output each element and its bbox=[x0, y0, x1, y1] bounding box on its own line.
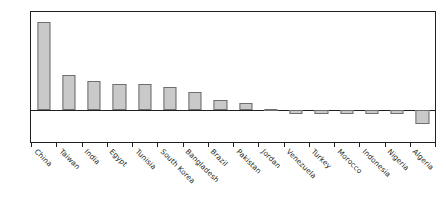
x-axis-label-brazil: Brazil bbox=[209, 147, 230, 168]
y-axis: 6.05.04.03.02.01.00.0-1.0-2.0 bbox=[0, 0, 30, 143]
bar-slot bbox=[359, 12, 384, 142]
bar-bangladesh bbox=[189, 92, 202, 109]
bar-brazil bbox=[214, 100, 227, 110]
x-axis-label-egypt: Egypt bbox=[108, 147, 130, 169]
x-axis-label-tunisia: Tunisia bbox=[133, 147, 157, 171]
bar-series bbox=[31, 12, 435, 142]
bar-pakistan bbox=[239, 103, 252, 110]
bar-slot bbox=[183, 12, 208, 142]
x-axis-label-jordan: Jordan bbox=[259, 147, 282, 170]
bar-slot bbox=[107, 12, 132, 142]
bar-slot bbox=[208, 12, 233, 142]
bar-slot bbox=[258, 12, 283, 142]
x-axis-label-pakistan: Pakistan bbox=[234, 147, 263, 176]
x-axis-label-turkey: Turkey bbox=[310, 147, 334, 171]
bar-slot bbox=[233, 12, 258, 142]
bar-nigeria bbox=[391, 110, 404, 115]
bar-slot bbox=[132, 12, 157, 142]
bar-south-korea bbox=[163, 87, 176, 110]
x-axis-tick-mark bbox=[435, 143, 436, 147]
bar-taiwan bbox=[62, 75, 75, 109]
bar-india bbox=[88, 81, 101, 109]
bar-tunisia bbox=[138, 84, 151, 110]
bar-slot bbox=[82, 12, 107, 142]
bar-chart: 6.05.04.03.02.01.00.0-1.0-2.0 ChinaTaiwa… bbox=[0, 0, 446, 200]
bar-slot bbox=[410, 12, 435, 142]
bar-slot bbox=[309, 12, 334, 142]
bar-indonesia bbox=[365, 110, 378, 115]
x-axis-label-algeria: Algeria bbox=[411, 147, 436, 172]
bar-slot bbox=[157, 12, 182, 142]
bar-slot bbox=[284, 12, 309, 142]
bar-slot bbox=[31, 12, 56, 142]
x-axis-labels: ChinaTaiwanIndiaEgyptTunisiaSouth KoreaB… bbox=[31, 147, 435, 200]
bar-slot bbox=[385, 12, 410, 142]
bar-jordan bbox=[264, 109, 277, 111]
bar-venezuela bbox=[290, 110, 303, 115]
bar-china bbox=[37, 22, 50, 110]
x-axis-label-china: China bbox=[32, 147, 53, 168]
bar-algeria bbox=[416, 110, 429, 125]
bar-slot bbox=[334, 12, 359, 142]
bar-slot bbox=[56, 12, 81, 142]
bar-turkey bbox=[315, 110, 328, 115]
x-axis-label-india: India bbox=[83, 147, 102, 166]
x-axis-label-morocco: Morocco bbox=[335, 147, 363, 175]
bar-egypt bbox=[113, 84, 126, 110]
bar-morocco bbox=[340, 110, 353, 115]
x-axis-label-taiwan: Taiwan bbox=[57, 147, 81, 171]
